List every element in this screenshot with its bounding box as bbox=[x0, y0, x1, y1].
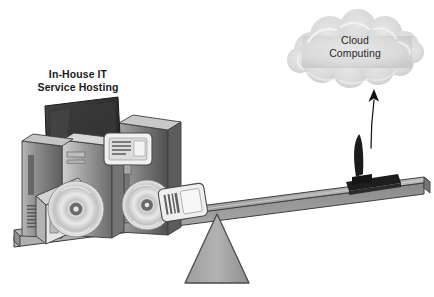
thin-client-laptop bbox=[346, 134, 401, 195]
in-house-it-label: In-House IT Service Hosting bbox=[14, 68, 142, 94]
cloud-computing-label: Cloud Computing bbox=[300, 34, 410, 60]
in-house-it-label-line2: Service Hosting bbox=[14, 81, 142, 94]
fulcrum-triangle bbox=[185, 214, 249, 283]
server-equipment-cluster bbox=[22, 97, 208, 244]
optical-disc-large bbox=[48, 181, 104, 237]
cloud-computing-label-line2: Computing bbox=[300, 47, 410, 60]
in-house-it-label-line1: In-House IT bbox=[14, 68, 142, 81]
upward-arrow bbox=[368, 89, 379, 148]
cloud-computing-label-line1: Cloud bbox=[300, 34, 410, 47]
document-panel bbox=[158, 183, 209, 223]
diagram-canvas: In-House IT Service Hosting Cloud Comput… bbox=[0, 0, 434, 297]
